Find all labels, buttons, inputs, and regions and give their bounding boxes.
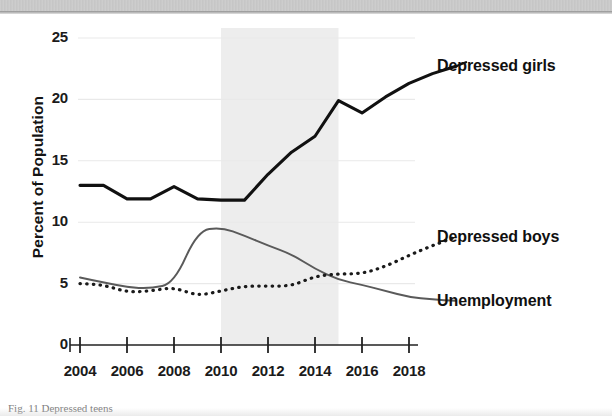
x-tick-2016: 2016	[343, 362, 381, 379]
y-tick-5: 5	[38, 274, 68, 291]
series-label-depressed-boys: Depressed boys	[437, 228, 559, 246]
x-tick-2006: 2006	[108, 362, 146, 379]
y-tick-0: 0	[38, 335, 68, 352]
x-tick-2018: 2018	[390, 362, 428, 379]
y-tick-20: 20	[38, 89, 68, 106]
y-axis-title: Percent of Population	[29, 77, 47, 277]
y-tick-25: 25	[38, 28, 68, 45]
figure-container: Percent of Population 0510152025 2004200…	[0, 0, 612, 416]
x-tick-2014: 2014	[296, 362, 334, 379]
x-tick-2010: 2010	[202, 362, 240, 379]
x-tick-2012: 2012	[249, 362, 287, 379]
recession-shaded-band	[221, 28, 339, 345]
scan-artifact-bottom-fade	[0, 408, 612, 416]
y-tick-15: 15	[38, 151, 68, 168]
series-label-depressed-girls: Depressed girls	[437, 57, 556, 75]
x-tick-2004: 2004	[61, 362, 99, 379]
y-tick-10: 10	[38, 212, 68, 229]
series-label-unemployment: Unemployment	[437, 292, 551, 310]
x-tick-2008: 2008	[155, 362, 193, 379]
